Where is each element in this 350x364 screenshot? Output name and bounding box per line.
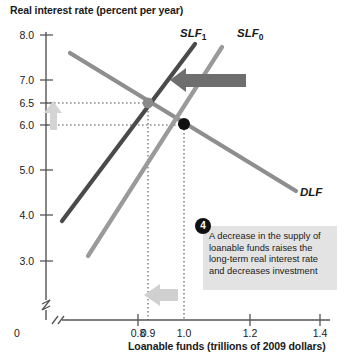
curve-label-slf1-subscript: 1 (202, 32, 207, 42)
x-tick-label-1_0: 1.0 (169, 327, 199, 339)
curve-label-dlf: DLF (300, 186, 322, 198)
curve-label-slf0-text: SLF (237, 27, 259, 39)
y-tick-label-3: 3.0 (8, 255, 34, 267)
chart-plot-area (0, 0, 350, 364)
curve-label-slf0-subscript: 0 (259, 32, 264, 42)
x-tick-label-0_9: 0.9 (133, 327, 163, 339)
curve-label-slf1-text: SLF (180, 27, 202, 39)
y-axis-break-icon (42, 300, 50, 310)
curve-label-slf1: SLF1 (180, 27, 206, 42)
loanable-funds-market-figure: Real interest rate (percent per year) (0, 0, 350, 364)
y-tick-label-6: 6.0 (8, 119, 34, 131)
curve-label-dlf-text: DLF (300, 186, 322, 198)
y-tick-label-8: 8.0 (8, 29, 34, 41)
annotation-text: A decrease in the supply of loanable fun… (209, 231, 333, 277)
x-tick-label-1_2: 1.2 (235, 327, 265, 339)
equilibrium-point-original (178, 118, 190, 130)
x-tick-label-0: 0 (2, 327, 32, 339)
x-tick-label-1_4: 1.4 (305, 327, 335, 339)
y-tick-label-4: 4.0 (8, 209, 34, 221)
y-tick-label-7: 7.0 (8, 74, 34, 86)
investment-decrease-arrow (144, 284, 178, 306)
x-axis-title: Loanable funds (trillions of 2009 dollar… (128, 340, 326, 352)
y-tick-label-5: 5.0 (8, 164, 34, 176)
annotation-badge: 4 (195, 218, 211, 234)
y-tick-label-6_5: 6.5 (8, 97, 34, 109)
curve-label-slf0: SLF0 (237, 27, 263, 42)
equilibrium-point-new (143, 98, 154, 109)
